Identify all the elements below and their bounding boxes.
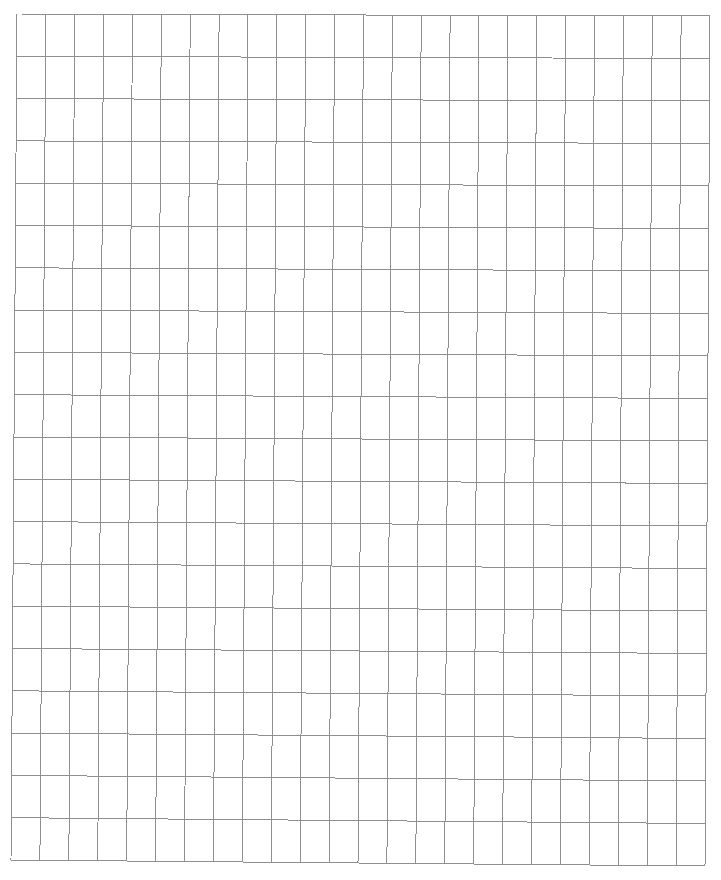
grid-lines bbox=[11, 14, 710, 866]
grid-worksheet bbox=[0, 0, 721, 880]
